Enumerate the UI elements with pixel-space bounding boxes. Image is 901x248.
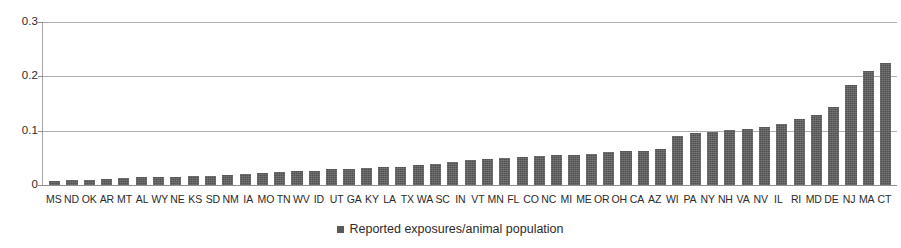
- bar[interactable]: [638, 151, 649, 185]
- bar[interactable]: [66, 180, 77, 185]
- x-axis-tick-label: MN: [487, 192, 505, 210]
- bar[interactable]: [655, 149, 666, 185]
- x-axis-tick-label: DE: [823, 192, 841, 210]
- bar[interactable]: [118, 178, 129, 185]
- bar[interactable]: [690, 133, 701, 185]
- bar[interactable]: [672, 136, 683, 185]
- bar-chart: 00.10.20.3 MSNDOKARMTALWYNEKSSDNMIAMOTNW…: [0, 0, 901, 248]
- bar[interactable]: [707, 132, 718, 185]
- bar[interactable]: [205, 176, 216, 185]
- bar[interactable]: [586, 154, 597, 186]
- bar[interactable]: [309, 171, 320, 185]
- bar[interactable]: [101, 179, 112, 185]
- bar-slot: [479, 22, 496, 185]
- bar-slot: [808, 22, 825, 185]
- x-axis-tick-label: FL: [504, 192, 522, 210]
- bar[interactable]: [188, 176, 199, 185]
- bar-slot: [340, 22, 357, 185]
- bar[interactable]: [84, 180, 95, 185]
- x-axis-tick-label: ID: [310, 192, 328, 210]
- x-axis-tick-label: WA: [416, 192, 434, 210]
- chart-legend: Reported exposures/animal population: [0, 222, 901, 236]
- bar-slot: [81, 22, 98, 185]
- bar[interactable]: [863, 71, 874, 185]
- bar[interactable]: [551, 155, 562, 185]
- bar[interactable]: [136, 177, 147, 185]
- bar-slot: [565, 22, 582, 185]
- bar[interactable]: [257, 173, 268, 185]
- bar[interactable]: [170, 177, 181, 185]
- bar-slot: [842, 22, 859, 185]
- bar-slot: [513, 22, 530, 185]
- bar[interactable]: [568, 155, 579, 185]
- x-axis-tick-label: PA: [681, 192, 699, 210]
- x-axis-tick-label: RI: [787, 192, 805, 210]
- plot-area: [42, 22, 896, 185]
- legend-item: Reported exposures/animal population: [337, 222, 563, 236]
- x-axis-tick-label: SC: [434, 192, 452, 210]
- bar[interactable]: [759, 127, 770, 185]
- bar[interactable]: [291, 171, 302, 185]
- x-axis-tick-label: GA: [345, 192, 363, 210]
- x-axis-tick-label: NE: [169, 192, 187, 210]
- bar[interactable]: [828, 107, 839, 185]
- bars-layer: [43, 22, 897, 185]
- bar[interactable]: [482, 159, 493, 185]
- bar[interactable]: [811, 115, 822, 185]
- x-axis-tick-label: MI: [557, 192, 575, 210]
- bar[interactable]: [794, 119, 805, 185]
- bar[interactable]: [603, 152, 614, 185]
- bar[interactable]: [274, 172, 285, 185]
- bar[interactable]: [845, 85, 856, 185]
- x-axis-tick-label: UT: [328, 192, 346, 210]
- bar[interactable]: [620, 151, 631, 185]
- bar[interactable]: [724, 130, 735, 185]
- bar[interactable]: [222, 175, 233, 185]
- bar[interactable]: [361, 168, 372, 185]
- x-axis-tick-label: CA: [628, 192, 646, 210]
- axis-baseline: [43, 185, 897, 186]
- bar[interactable]: [776, 124, 787, 185]
- bar-slot: [410, 22, 427, 185]
- x-axis-tick-label: CO: [522, 192, 540, 210]
- bar-slot: [375, 22, 392, 185]
- bar[interactable]: [430, 164, 441, 185]
- bar-slot: [877, 22, 894, 185]
- bar[interactable]: [153, 177, 164, 185]
- bar[interactable]: [343, 169, 354, 185]
- bar[interactable]: [447, 162, 458, 185]
- x-axis-tick-label: TX: [398, 192, 416, 210]
- bar-slot: [202, 22, 219, 185]
- bar[interactable]: [326, 169, 337, 185]
- bar-slot: [756, 22, 773, 185]
- plot-wrapper: 00.10.20.3 MSNDOKARMTALWYNEKSSDNMIAMOTNW…: [0, 0, 901, 190]
- bar[interactable]: [465, 160, 476, 185]
- bar[interactable]: [517, 157, 528, 185]
- x-axis-tick-label: AZ: [646, 192, 664, 210]
- bar-slot: [617, 22, 634, 185]
- bar-slot: [739, 22, 756, 185]
- bar[interactable]: [49, 181, 60, 185]
- square-marker-icon: [337, 226, 344, 233]
- bar-slot: [46, 22, 63, 185]
- x-axis-tick-label: NM: [222, 192, 240, 210]
- x-axis-tick-label: NH: [717, 192, 735, 210]
- bar-slot: [219, 22, 236, 185]
- bar-slot: [254, 22, 271, 185]
- bar[interactable]: [395, 167, 406, 185]
- bar[interactable]: [378, 167, 389, 185]
- bar[interactable]: [499, 158, 510, 185]
- bar-slot: [288, 22, 305, 185]
- bar[interactable]: [240, 174, 251, 185]
- bar[interactable]: [413, 165, 424, 185]
- x-axis-tick-label: LA: [381, 192, 399, 210]
- bar[interactable]: [742, 129, 753, 185]
- x-axis-tick-label: NC: [540, 192, 558, 210]
- x-axis-tick-label: NV: [752, 192, 770, 210]
- bar[interactable]: [534, 156, 545, 185]
- bar-slot: [306, 22, 323, 185]
- bar[interactable]: [880, 63, 891, 185]
- y-axis-labels: 00.10.20.3: [0, 0, 38, 190]
- x-axis-tick-label: WY: [151, 192, 169, 210]
- bar-slot: [167, 22, 184, 185]
